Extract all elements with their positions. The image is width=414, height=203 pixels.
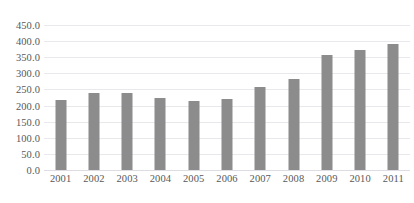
x-tick-label: 2005 [183,173,204,184]
bar-slot [244,25,277,170]
y-tick-label: 450.0 [16,20,40,31]
y-tick-label: 200.0 [16,100,40,111]
bar [288,79,299,170]
y-axis: 0.050.0100.0150.0200.0250.0300.0350.0400… [0,25,40,170]
bar [88,93,99,170]
bar-slot [343,25,376,170]
x-tick-label: 2002 [83,173,104,184]
x-tick-label: 2008 [283,173,304,184]
bar-slot [144,25,177,170]
bar-slot [177,25,210,170]
y-tick-label: 150.0 [16,116,40,127]
bar [55,100,66,170]
bar [188,101,199,170]
bar-slot [277,25,310,170]
y-tick-label: 350.0 [16,52,40,63]
y-tick-label: 250.0 [16,84,40,95]
bar-slot [310,25,343,170]
x-axis-line [44,170,410,171]
bar [255,87,266,170]
bar-slot [210,25,243,170]
x-tick-label: 2007 [250,173,271,184]
bar-slot [44,25,77,170]
x-tick-label: 2009 [316,173,337,184]
bar-slot [77,25,110,170]
x-tick-label: 2003 [116,173,137,184]
bar [155,98,166,170]
y-tick-label: 300.0 [16,68,40,79]
x-tick-label: 2011 [383,173,404,184]
y-tick-label: 400.0 [16,36,40,47]
bar [321,55,332,170]
x-tick-label: 2006 [216,173,237,184]
bar [221,99,232,170]
y-tick-label: 100.0 [16,132,40,143]
x-tick-label: 2004 [150,173,171,184]
bar-slot [111,25,144,170]
x-axis: 2001200220032004200520062007200820092010… [44,173,410,193]
bar [122,93,133,170]
y-tick-label: 50.0 [21,148,40,159]
bar-chart: 0.050.0100.0150.0200.0250.0300.0350.0400… [0,0,414,203]
bars-layer [44,25,410,170]
x-tick-label: 2010 [349,173,370,184]
y-tick-label: 0.0 [27,165,40,176]
x-tick-label: 2001 [50,173,71,184]
bar [355,50,366,170]
bar [388,44,399,170]
bar-slot [377,25,410,170]
